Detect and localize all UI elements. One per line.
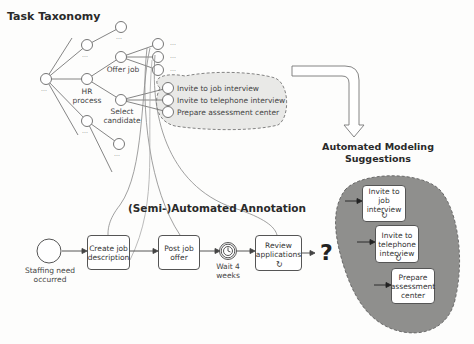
timer-event — [220, 243, 237, 260]
suggestion-invite-to-telephone-interview[interactable]: Invite to telephone interview ↻ — [375, 225, 419, 263]
task-post-job-offer[interactable]: Post job offer — [158, 235, 200, 270]
suggestions-title-line1: Automated Modeling — [318, 141, 438, 152]
taxonomy-root-node — [41, 74, 52, 85]
ellipsis-label: ... — [116, 33, 122, 40]
candidate-child-label: Invite to job interview — [177, 84, 259, 93]
candidate-child-label: Invite to telephone interview — [177, 96, 285, 105]
loop-marker-icon: ↻ — [395, 254, 402, 263]
suggestions-title-line2: Suggestions — [318, 153, 438, 164]
ellipsis-label: ... — [114, 150, 120, 157]
hr-process-node — [82, 74, 93, 85]
diagram-canvas: Task Taxonomy (Semi-)Automated Annotatio… — [0, 0, 474, 344]
ellipsis-label: ... — [41, 85, 47, 92]
offer-job-node — [116, 52, 127, 63]
task-review-applications[interactable]: Review applications ↻ — [255, 235, 302, 271]
ellipsis-label: ... — [170, 52, 176, 59]
suggestion-invite-to-job-interview[interactable]: Invite to job interview ↻ — [362, 185, 406, 222]
unknown-next-step: ? — [320, 240, 333, 265]
suggestion-prepare-assessment-center[interactable]: Prepare assessment center — [391, 268, 435, 304]
task-taxonomy-title: Task Taxonomy — [7, 10, 100, 23]
select-candidate-label: Select candidate — [101, 107, 143, 125]
ellipsis-label: ... — [82, 51, 88, 58]
hr-process-label: HR process — [72, 87, 102, 105]
candidate-child-label: Prepare assessment center — [177, 108, 279, 117]
flow-arrow — [292, 66, 364, 137]
ellipsis-label: ... — [170, 65, 176, 72]
task-create-job-description[interactable]: Create job description — [87, 235, 130, 270]
select-candidate-node — [116, 95, 127, 106]
start-event-circle — [37, 239, 61, 263]
loop-marker-icon: ↻ — [276, 260, 283, 269]
start-event-label: Staffing need occurred — [22, 266, 78, 284]
timer-event-label: Wait 4 weeks — [213, 262, 243, 280]
ellipsis-label: ... — [170, 39, 176, 46]
loop-marker-icon: ↻ — [381, 211, 388, 220]
offer-job-label: Offer job — [102, 65, 144, 74]
ellipsis-label: ... — [82, 127, 88, 134]
semi-automated-annotation-title: (Semi-)Automated Annotation — [128, 202, 306, 214]
